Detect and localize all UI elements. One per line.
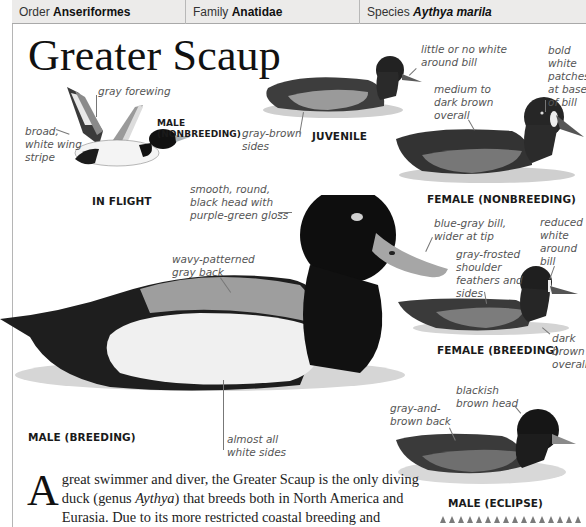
triangle-icon <box>521 516 527 523</box>
species-description: A great swimmer and diver, the Greater S… <box>28 470 430 527</box>
drop-cap: A <box>27 473 59 509</box>
label-gray-frosted-shoulders: gray-frostedshoulderfeathers andsides <box>456 248 523 300</box>
label-almost-all-white-sides: almost allwhite sides <box>227 433 286 459</box>
decorative-triangle-border <box>440 516 586 527</box>
caption-male-breeding: MALE (BREEDING) <box>28 431 136 443</box>
triangle-icon <box>530 516 536 523</box>
triangle-icon <box>476 516 482 523</box>
species-cell: Species Aythya marila <box>360 0 586 24</box>
label-medium-dark-brown: medium todark brownoverall <box>434 83 493 122</box>
species-value: Aythya marila <box>413 5 492 19</box>
triangle-icon <box>458 516 464 523</box>
order-value: Anseriformes <box>53 5 130 19</box>
triangle-icon <box>494 516 500 523</box>
taxonomy-header: Order Anseriformes Family Anatidae Speci… <box>12 0 586 24</box>
triangle-icon <box>548 516 554 523</box>
caption-male-eclipse: MALE (ECLIPSE) <box>448 497 543 509</box>
label-bold-white-patches: boldwhitepatchesat baseof bill <box>548 44 586 109</box>
triangle-icon <box>566 516 572 523</box>
order-cell: Order Anseriformes <box>12 0 186 24</box>
triangle-icon <box>503 516 509 523</box>
leader-line <box>545 100 546 112</box>
leader-line <box>96 95 97 117</box>
leader-line <box>278 212 292 213</box>
triangle-icon <box>485 516 491 523</box>
family-value: Anatidae <box>232 5 283 19</box>
caption-male-nonbreeding: MALE (NONBREEDING) <box>157 118 241 140</box>
triangle-icon <box>449 516 455 523</box>
label-reduced-white-around-bill: reducedwhitearoundbill <box>540 216 583 268</box>
triangle-icon <box>512 516 518 523</box>
male-breeding-duck-illustration <box>0 195 450 400</box>
label-little-white-around-bill: little or no whitearound bill <box>421 43 511 69</box>
triangle-icon <box>539 516 545 523</box>
triangle-icon <box>557 516 563 523</box>
label-dark-brown-overall: darkbrownoverall <box>552 332 586 371</box>
triangle-icon <box>467 516 473 523</box>
species-label: Species <box>367 5 410 19</box>
label-gray-forewing: gray forewing <box>98 85 171 98</box>
order-label: Order <box>19 5 50 19</box>
label-gray-and-brown-back: gray-and-brown back <box>390 402 451 428</box>
family-cell: Family Anatidae <box>186 0 360 24</box>
label-wavy-gray-back: wavy-patternedgray back <box>172 253 255 279</box>
page-title: Greater Scaup <box>28 30 281 81</box>
caption-female-breeding: FEMALE (BREEDING) <box>437 344 559 356</box>
family-label: Family <box>193 5 228 19</box>
leader-line <box>223 380 224 450</box>
label-white-wing-stripe: broad,white wingstripe <box>25 125 85 164</box>
triangle-icon <box>440 516 446 523</box>
label-gray-brown-sides: gray-brownsides <box>242 127 302 153</box>
label-black-head-gloss: smooth, round,black head withpurple-gree… <box>190 183 320 222</box>
label-blue-gray-bill: blue-gray bill,wider at tip <box>434 217 506 243</box>
triangle-icon <box>575 516 581 523</box>
label-blackish-brown-head: blackishbrown head <box>456 384 518 410</box>
caption-juvenile: JUVENILE <box>312 130 367 142</box>
